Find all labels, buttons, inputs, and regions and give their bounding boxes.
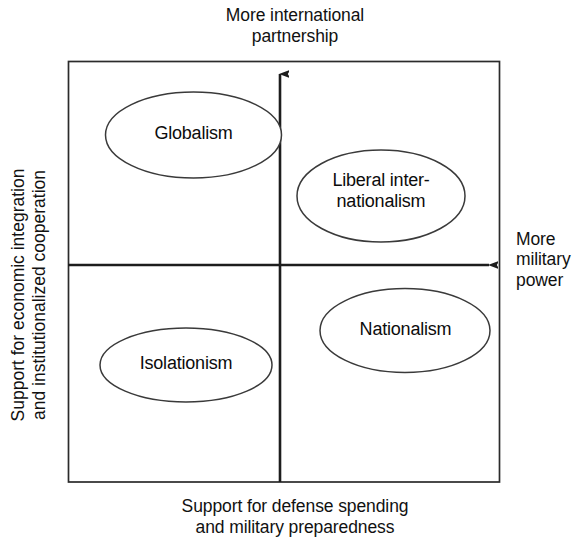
bubble-liberal-internationalism[interactable] — [297, 150, 465, 242]
quadrant-diagram: Globalism Liberal inter- nationalism Iso… — [0, 0, 582, 547]
bubble-isolationism[interactable] — [100, 328, 272, 402]
axis-label-left: Support for economic integration and ins… — [8, 110, 51, 480]
axis-label-top: More international partnership — [155, 5, 435, 47]
bubble-globalism[interactable] — [106, 92, 282, 178]
axis-label-right: More military power — [516, 229, 582, 290]
bubble-nationalism[interactable] — [320, 289, 490, 373]
axis-label-left-container: Support for economic integration and ins… — [0, 110, 58, 480]
axis-label-bottom: Support for defense spending and militar… — [95, 496, 495, 538]
diagram-canvas — [0, 0, 582, 547]
